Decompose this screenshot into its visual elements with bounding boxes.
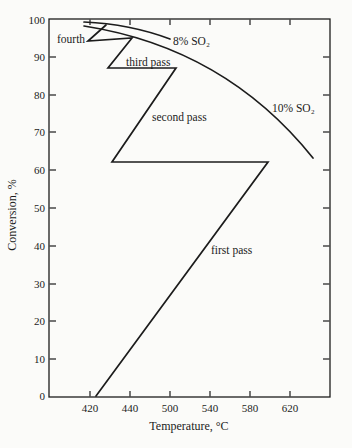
- x-tick-label: 440: [122, 402, 139, 414]
- label-second-pass: second pass: [152, 111, 207, 124]
- x-tick-label: 500: [162, 402, 179, 414]
- so2-conversion-figure: 0 10 20 30 40 50 60 70 80 90 100 420 440…: [0, 0, 352, 448]
- y-axis-ticks-right: [323, 57, 329, 359]
- plot-border: [49, 19, 330, 397]
- x-axis-ticks-bottom: [90, 391, 290, 396]
- y-tick-label: 70: [34, 126, 46, 138]
- y-tick-label: 10: [34, 353, 46, 365]
- y-tick-label: 0: [40, 390, 46, 402]
- x-axis-tick-labels: 420 440 500 540 580 620: [82, 402, 299, 414]
- y-tick-label: 80: [34, 89, 46, 101]
- equilibrium-curve-8pct: [84, 22, 170, 39]
- label-first-pass: first pass: [211, 244, 253, 257]
- x-axis-title: Temperature, °C: [149, 419, 228, 433]
- y-tick-label: 100: [29, 14, 46, 26]
- label-third-pass: third pass: [126, 56, 171, 69]
- x-tick-label: 420: [82, 402, 99, 414]
- y-tick-label: 60: [34, 164, 46, 176]
- y-axis-title: Conversion, %: [5, 179, 19, 250]
- y-axis-tick-labels: 0 10 20 30 40 50 60 70 80 90 100: [29, 14, 46, 402]
- y-tick-label: 40: [34, 240, 46, 252]
- x-axis-ticks-top: [90, 20, 290, 25]
- x-tick-label: 580: [242, 402, 259, 414]
- y-axis-ticks-left: [50, 57, 56, 359]
- label-fourth-pass: fourth: [57, 33, 85, 45]
- conversion-chart: 0 10 20 30 40 50 60 70 80 90 100 420 440…: [0, 0, 352, 448]
- label-8pct-so2: 8% SO₂: [173, 35, 210, 47]
- x-tick-label: 620: [282, 402, 299, 414]
- operating-line-passes: [88, 25, 268, 396]
- y-tick-label: 20: [34, 315, 46, 327]
- y-tick-label: 50: [34, 202, 46, 214]
- y-tick-label: 30: [34, 278, 46, 290]
- x-tick-label: 540: [202, 402, 219, 414]
- y-tick-label: 90: [34, 51, 46, 63]
- label-10pct-so2: 10% SO₂: [272, 102, 315, 114]
